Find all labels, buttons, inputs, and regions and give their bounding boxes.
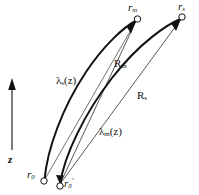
label-lambda-m: λm(z) [99, 126, 122, 138]
label-R-s-sub: s [144, 94, 147, 101]
R-m-line [60, 21, 136, 184]
label-r-m: rm [128, 2, 137, 14]
label-r-0-sub: 0 [31, 173, 34, 180]
R-s-line [60, 19, 181, 184]
diagram-canvas [0, 0, 199, 195]
label-r-s-sub: s [182, 5, 185, 12]
label-R-m-sub: m [121, 62, 126, 69]
label-lambda-m-arg: (z) [110, 125, 122, 137]
label-R-s: Rs [137, 90, 147, 102]
label-r-s: rs [178, 1, 185, 13]
label-r-0-prime-mark: ′ [72, 177, 74, 186]
z-axis-arrow [8, 78, 16, 150]
label-r-m-sub: m [132, 6, 137, 13]
label-lambda-s-arg: (z) [64, 74, 76, 86]
marker-r-0-prime [57, 183, 63, 189]
marker-r-s [179, 14, 185, 20]
label-R-m: Rm [114, 58, 127, 70]
z-axis-arrowhead [8, 78, 16, 90]
r0-to-rm-guide-line [45, 21, 136, 179]
label-z-axis: z [8, 154, 12, 165]
label-lambda-s: λs(z) [56, 75, 76, 87]
marker-r-m [134, 16, 140, 22]
marker-r-0 [41, 178, 47, 184]
label-r-0: r0 [27, 169, 35, 181]
label-r-0-prime: r0′ [64, 178, 73, 190]
propagation-path-diagram: rm rs r0 r0′ λs(z) λm(z) Rm Rs z [0, 0, 199, 195]
